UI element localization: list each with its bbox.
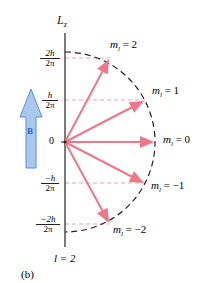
ml-value: = −2: [126, 223, 147, 235]
tick-den: 2π: [41, 184, 59, 193]
ml-symbol: m: [163, 133, 171, 145]
axis-label: Lz: [57, 13, 67, 29]
origin-point: [63, 140, 66, 143]
ml-label-0: ml = 0: [163, 133, 190, 148]
tick-label-h: h 2π: [42, 91, 58, 110]
ml-label-1: ml = 1: [152, 84, 179, 99]
tick-den: 2π: [42, 101, 58, 110]
axis-label-sub: z: [64, 20, 67, 29]
tick-den: 2π: [40, 59, 60, 68]
tick-label-neg-h: −h 2π: [41, 174, 59, 193]
ml-label-neg-1: ml = −1: [151, 179, 184, 194]
ml-sub: l: [159, 186, 161, 194]
angular-momentum-vectors: [65, 61, 152, 221]
field-label: B: [27, 126, 33, 136]
ml-value: = 0: [176, 133, 190, 145]
tick-label-0: 0: [49, 135, 54, 146]
ml-sub: l: [171, 140, 173, 148]
quantum-number-label: l = 2: [54, 252, 75, 264]
ml-symbol: m: [152, 84, 160, 96]
ml-symbol: m: [110, 38, 118, 50]
tick-label-2h: 2h 2π: [40, 49, 60, 68]
ml-symbol: m: [113, 223, 121, 235]
ml-value: = −1: [164, 179, 185, 191]
ml-label-2: ml = 2: [110, 38, 137, 53]
ml-label-neg-2: ml = −2: [113, 223, 146, 238]
ml-sub: l: [118, 45, 120, 53]
axis-label-main: L: [57, 13, 64, 27]
ml-sub: l: [121, 230, 123, 238]
ml-sub: l: [160, 91, 162, 99]
tick-den: 2π: [36, 225, 60, 234]
panel-label: (b): [21, 268, 34, 280]
tick-label-neg-2h: −2h 2π: [36, 215, 60, 234]
ml-symbol: m: [151, 179, 159, 191]
ml-value: = 1: [165, 84, 179, 96]
ml-value: = 2: [123, 38, 137, 50]
